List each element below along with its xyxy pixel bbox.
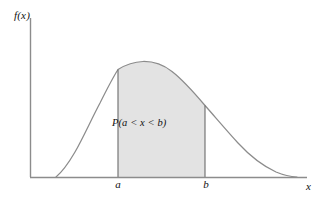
probability-density-figure: f(x) x a b P(a < x < b) bbox=[0, 0, 334, 203]
x-tick-label-a: a bbox=[110, 178, 126, 190]
x-tick-label-b: b bbox=[198, 178, 214, 190]
probability-region-label: P(a < x < b) bbox=[112, 117, 166, 128]
y-axis-label: f(x) bbox=[14, 9, 30, 21]
x-axis-label: x bbox=[306, 180, 311, 192]
plot-canvas bbox=[0, 0, 334, 203]
